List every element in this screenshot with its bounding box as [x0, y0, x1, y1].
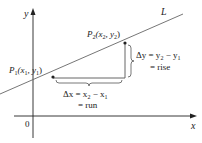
- line-label: L: [160, 6, 167, 17]
- rise-brace: [128, 45, 134, 77]
- y-axis-arrow-icon: [31, 8, 36, 15]
- run-brace: [56, 80, 122, 86]
- p1-label: P1(x1, y1): [8, 65, 42, 76]
- point-p1: [51, 75, 54, 78]
- p2-label: P2(x2, y2): [86, 29, 120, 40]
- slope-diagram: y x 0 L P1(x1, y1) P2(x2, y2) Δx = x2 − …: [0, 0, 202, 143]
- x-axis-arrow-icon: [190, 114, 197, 119]
- delta-x-run-label: = run: [78, 100, 98, 110]
- y-axis-label: y: [23, 8, 29, 19]
- x-axis: [14, 114, 197, 119]
- point-p2: [123, 41, 126, 44]
- origin-label: 0: [25, 119, 30, 129]
- x-axis-label: x: [190, 120, 196, 131]
- delta-y-rise-label: = rise: [150, 62, 170, 72]
- delta-y-formula: Δy = y2 − y1: [136, 50, 180, 61]
- delta-x-formula: Δx = x2 − x1: [63, 89, 107, 100]
- diagram-canvas: y x 0 L P1(x1, y1) P2(x2, y2) Δx = x2 − …: [0, 0, 202, 143]
